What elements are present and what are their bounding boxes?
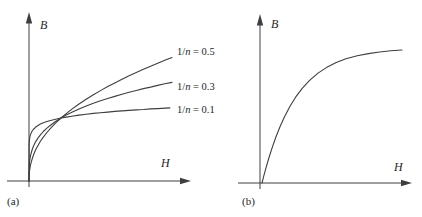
- panel-b-caption: (b): [242, 195, 255, 208]
- x-axis-arrow-icon-a: [180, 178, 191, 184]
- curve-a-1n-0.1: [29, 108, 170, 181]
- x-axis-arrow-icon-b: [401, 180, 412, 186]
- curve-label-1n-0.1: 1/n = 0.1: [177, 104, 215, 115]
- y-axis-arrow-icon-a: [26, 12, 32, 24]
- x-axis-label-a: H: [160, 156, 171, 170]
- y-axis-arrow-icon-b: [257, 14, 263, 26]
- curve-a-1n-0.3: [29, 82, 172, 181]
- panel-a: B H 1/n = 0.5 1/n = 0.3 1/n = 0.1 (a): [7, 12, 215, 208]
- bh-curves-figure: B H 1/n = 0.5 1/n = 0.3 1/n = 0.1 (a) B …: [0, 0, 422, 217]
- curve-a-1n-0.5: [29, 58, 172, 182]
- x-axis-label-b: H: [393, 160, 404, 174]
- panel-a-caption: (a): [7, 195, 20, 208]
- panel-b: B H (b): [238, 14, 412, 208]
- y-axis-label-b: B: [271, 17, 279, 31]
- curve-label-1n-0.5: 1/n = 0.5: [177, 46, 215, 57]
- figure-canvas: B H 1/n = 0.5 1/n = 0.3 1/n = 0.1 (a) B …: [0, 0, 422, 217]
- y-axis-label-a: B: [40, 18, 48, 32]
- curve-b-saturation: [262, 50, 402, 183]
- curve-label-1n-0.3: 1/n = 0.3: [177, 81, 215, 92]
